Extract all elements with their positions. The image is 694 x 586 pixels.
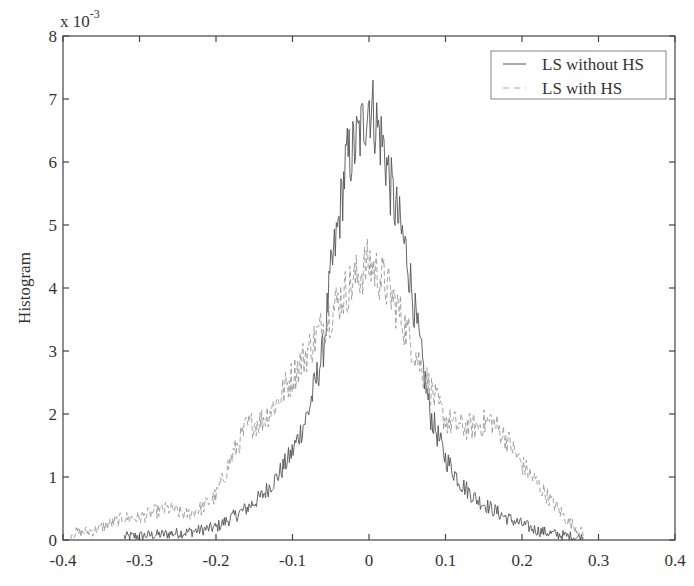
x-tick-label: 0.2 [511, 551, 532, 570]
y-tick-label: 5 [49, 216, 58, 235]
y-tick-labels: 012345678 [49, 27, 58, 550]
axis-ticks [63, 36, 675, 540]
x-tick-label: -0.2 [203, 551, 230, 570]
y-tick-label: 8 [49, 27, 58, 46]
x-tick-label: 0 [365, 551, 374, 570]
x-tick-label: -0.4 [50, 551, 77, 570]
y-tick-label: 0 [49, 531, 58, 550]
y-tick-label: 3 [49, 342, 58, 361]
series-ls-without-hs [124, 80, 583, 540]
legend: LS without HS LS with HS [491, 51, 666, 99]
y-tick-label: 6 [49, 153, 58, 172]
x-tick-label: 0.4 [664, 551, 686, 570]
histogram-chart: -0.4-0.3-0.2-0.100.10.20.30.4 012345678 … [0, 0, 694, 586]
x-tick-label: 0.3 [588, 551, 609, 570]
x-tick-label: -0.3 [126, 551, 153, 570]
y-multiplier: x 10-3 [60, 7, 100, 31]
x-tick-label: 0.1 [435, 551, 456, 570]
axes-frame [63, 36, 675, 540]
series-ls-with-hs [71, 239, 584, 539]
y-tick-label: 1 [49, 468, 58, 487]
y-tick-label: 2 [49, 405, 58, 424]
legend-label-with-hs: LS with HS [542, 79, 622, 98]
y-tick-label: 7 [49, 90, 58, 109]
legend-label-without-hs: LS without HS [542, 55, 644, 74]
x-tick-label: -0.1 [279, 551, 306, 570]
y-axis-label: Histogram [15, 252, 34, 324]
plot-area [71, 80, 584, 540]
y-tick-label: 4 [49, 279, 58, 298]
x-tick-labels: -0.4-0.3-0.2-0.100.10.20.30.4 [50, 551, 687, 570]
